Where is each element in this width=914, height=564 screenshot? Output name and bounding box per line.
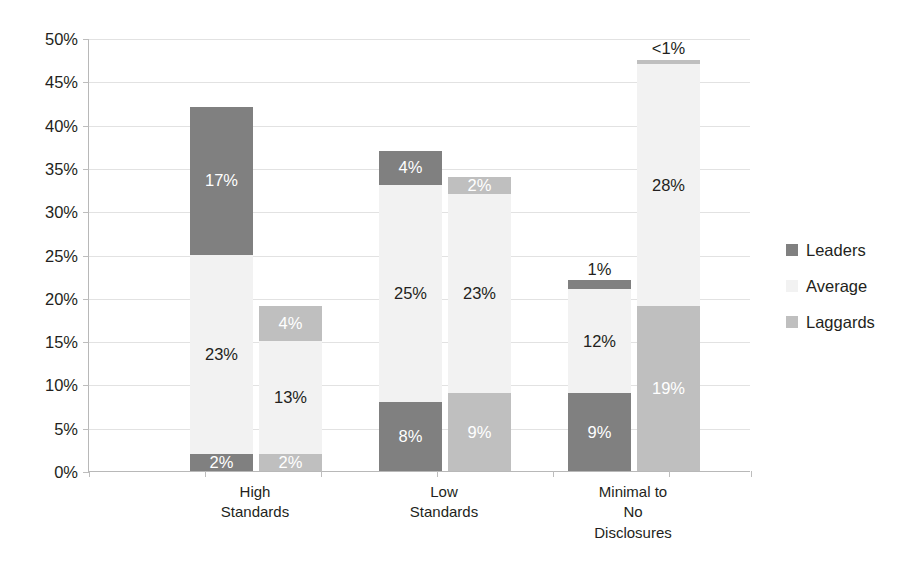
bar-segment-average[interactable] <box>379 185 442 402</box>
y-axis-tick-mark <box>83 39 89 40</box>
bar-segment-laggards[interactable] <box>568 393 631 471</box>
bar-segment-laggards[interactable] <box>190 454 253 471</box>
x-axis-tick-mark <box>437 471 438 477</box>
x-axis-tick-mark <box>553 471 554 477</box>
bar-segment-laggards[interactable] <box>379 402 442 471</box>
stacked-bar[interactable]: 9%23%2% <box>448 177 511 471</box>
x-axis-tick-mark <box>751 471 752 477</box>
bar-segment-average[interactable] <box>637 64 700 306</box>
legend-swatch-laggards-icon <box>786 316 798 328</box>
bar-segment-leaders[interactable] <box>259 306 322 341</box>
bar-segment-average[interactable] <box>259 341 322 454</box>
y-axis-tick-mark <box>83 169 89 170</box>
bar-segment-value-label: <1% <box>637 40 700 57</box>
y-axis-tick-mark <box>83 299 89 300</box>
legend-label: Average <box>806 277 867 296</box>
y-axis-tick-label: 40% <box>0 116 78 135</box>
chart-legend: LeadersAverageLaggards <box>786 232 914 340</box>
bar-segment-leaders[interactable] <box>637 60 700 64</box>
x-axis-category-label: Low Standards <box>374 482 514 523</box>
y-axis-tick-label: 45% <box>0 73 78 92</box>
y-axis-tick-mark <box>83 212 89 213</box>
y-axis-tick-label: 30% <box>0 203 78 222</box>
stacked-bar-chart: 0%5%10%15%20%25%30%35%40%45%50% 2%23%17%… <box>0 0 914 564</box>
bar-segment-average[interactable] <box>568 289 631 393</box>
y-axis-tick-mark <box>83 256 89 257</box>
stacked-bar[interactable]: 9%12%1% <box>568 280 631 471</box>
bar-segment-laggards[interactable] <box>259 454 322 471</box>
x-axis-tick-mark <box>89 471 90 477</box>
x-axis-category-label: Minimal to No Disclosures <box>563 482 703 543</box>
plot-area: 2%23%17%2%13%4%8%25%4%9%23%2%9%12%1%19%2… <box>88 39 750 472</box>
bar-segment-leaders[interactable] <box>448 177 511 194</box>
bar-segment-leaders[interactable] <box>568 280 631 289</box>
bar-segment-average[interactable] <box>190 255 253 454</box>
y-axis-tick-label: 10% <box>0 376 78 395</box>
y-axis-tick-mark <box>83 429 89 430</box>
x-axis-tick-mark <box>321 471 322 477</box>
bar-segment-leaders[interactable] <box>190 107 253 254</box>
legend-item-laggards[interactable]: Laggards <box>786 304 914 340</box>
y-axis-tick-label: 0% <box>0 463 78 482</box>
legend-item-average[interactable]: Average <box>786 268 914 304</box>
bar-segment-laggards[interactable] <box>637 306 700 471</box>
y-axis-tick-label: 15% <box>0 333 78 352</box>
legend-item-leaders[interactable]: Leaders <box>786 232 914 268</box>
stacked-bar[interactable]: 2%13%4% <box>259 306 322 471</box>
legend-swatch-average-icon <box>786 280 798 292</box>
x-axis-tick-mark <box>205 471 206 477</box>
y-axis-tick-mark <box>83 385 89 386</box>
stacked-bar[interactable]: 2%23%17% <box>190 107 253 471</box>
bar-segment-laggards[interactable] <box>448 393 511 471</box>
x-axis-tick-mark <box>669 471 670 477</box>
y-axis-tick-label: 35% <box>0 159 78 178</box>
stacked-bar[interactable]: 19%28%<1% <box>637 60 700 471</box>
gridline <box>89 472 750 473</box>
y-axis-tick-mark <box>83 82 89 83</box>
y-axis-tick-label: 25% <box>0 246 78 265</box>
legend-label: Leaders <box>806 241 866 260</box>
bar-segment-average[interactable] <box>448 194 511 393</box>
y-axis-tick-label: 5% <box>0 419 78 438</box>
bar-segment-value-label: 1% <box>568 261 631 278</box>
y-axis-tick-label: 50% <box>0 30 78 49</box>
gridline <box>89 39 750 40</box>
stacked-bar[interactable]: 8%25%4% <box>379 151 442 471</box>
bar-segment-leaders[interactable] <box>379 151 442 186</box>
y-axis-tick-label: 20% <box>0 289 78 308</box>
y-axis-tick-mark <box>83 126 89 127</box>
legend-swatch-leaders-icon <box>786 244 798 256</box>
legend-label: Laggards <box>806 313 875 332</box>
y-axis-tick-mark <box>83 342 89 343</box>
x-axis-category-label: High Standards <box>185 482 325 523</box>
